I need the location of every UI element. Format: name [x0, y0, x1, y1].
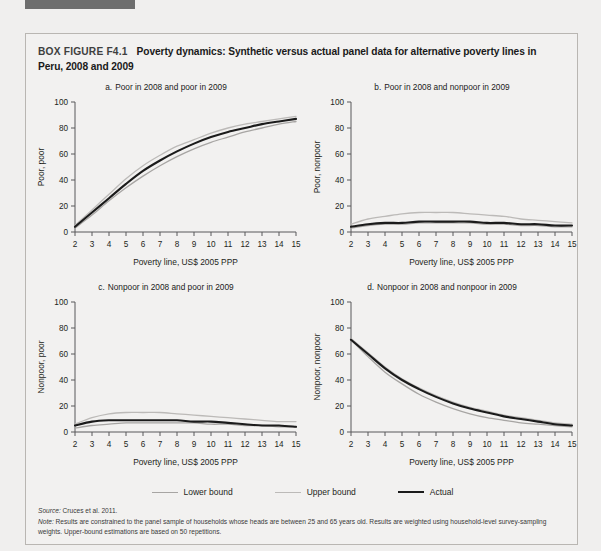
svg-text:5: 5 — [124, 240, 129, 249]
svg-text:15: 15 — [291, 240, 301, 249]
svg-text:7: 7 — [434, 240, 439, 249]
svg-text:7: 7 — [158, 240, 163, 249]
legend-label-lower-bound: Lower bound — [184, 487, 233, 497]
svg-text:100: 100 — [330, 98, 344, 107]
note-body-label: Note: — [38, 518, 54, 525]
svg-text:10: 10 — [206, 440, 216, 449]
svg-text:Poverty line, US$ 2005 PPP: Poverty line, US$ 2005 PPP — [133, 257, 238, 267]
note-source-label: Source: — [38, 507, 61, 514]
figure-title: BOX FIGURE F4.1Poverty dynamics: Synthet… — [38, 44, 563, 74]
svg-text:40: 40 — [59, 176, 69, 185]
svg-text:2: 2 — [73, 240, 78, 249]
figure-box: BOX FIGURE F4.1Poverty dynamics: Synthet… — [25, 33, 578, 545]
figure-notes: Source: Cruces et al. 2011. Note: Result… — [38, 506, 563, 538]
svg-text:15: 15 — [567, 440, 577, 449]
svg-text:15: 15 — [567, 240, 577, 249]
svg-text:20: 20 — [335, 202, 345, 211]
svg-text:Poor, poor: Poor, poor — [36, 147, 46, 186]
legend-swatch-actual-icon — [398, 491, 424, 493]
svg-text:14: 14 — [550, 440, 560, 449]
svg-text:7: 7 — [158, 440, 163, 449]
legend-item-actual: Actual — [398, 487, 454, 497]
chart-panel-b: b.Poor in 2008 and nonpoor in 2009 02040… — [304, 80, 580, 280]
svg-text:40: 40 — [335, 176, 345, 185]
svg-text:9: 9 — [192, 240, 197, 249]
svg-text:11: 11 — [224, 240, 233, 249]
svg-text:100: 100 — [54, 298, 68, 307]
svg-text:9: 9 — [468, 240, 473, 249]
svg-text:14: 14 — [274, 440, 284, 449]
svg-text:80: 80 — [335, 124, 345, 133]
svg-text:100: 100 — [330, 298, 344, 307]
svg-text:4: 4 — [383, 240, 388, 249]
svg-text:4: 4 — [107, 440, 112, 449]
svg-text:3: 3 — [90, 240, 95, 249]
svg-text:12: 12 — [516, 240, 526, 249]
svg-text:2: 2 — [349, 240, 354, 249]
svg-text:2: 2 — [73, 440, 78, 449]
svg-text:6: 6 — [141, 240, 146, 249]
svg-text:2: 2 — [349, 440, 354, 449]
svg-text:13: 13 — [257, 440, 267, 449]
svg-text:3: 3 — [366, 440, 371, 449]
legend-label-upper-bound: Upper bound — [307, 487, 356, 497]
legend-item-upper-bound: Upper bound — [275, 487, 356, 497]
svg-text:60: 60 — [59, 350, 69, 359]
svg-text:8: 8 — [451, 440, 456, 449]
note-source: Source: Cruces et al. 2011. — [38, 506, 563, 516]
note-body: Note: Results are constrained to the pan… — [38, 517, 563, 537]
svg-text:Nonpoor, poor: Nonpoor, poor — [36, 340, 46, 393]
chart-c-canvas: 02040608010023456789101112131415Nonpoor,… — [28, 280, 304, 480]
svg-text:12: 12 — [240, 240, 250, 249]
chart-panel-c: c.Nonpoor in 2008 and poor in 2009 02040… — [28, 280, 304, 480]
redacted-header-bar — [25, 0, 135, 9]
svg-text:0: 0 — [63, 228, 68, 237]
figure-tag: BOX FIGURE F4.1 — [38, 46, 128, 57]
svg-text:80: 80 — [59, 324, 69, 333]
svg-text:3: 3 — [90, 440, 95, 449]
svg-text:9: 9 — [192, 440, 197, 449]
svg-text:60: 60 — [335, 350, 345, 359]
legend-swatch-upper-bound-icon — [275, 492, 301, 493]
svg-text:5: 5 — [400, 440, 405, 449]
svg-text:8: 8 — [175, 440, 180, 449]
chart-b-canvas: 02040608010023456789101112131415Poor, no… — [304, 80, 580, 280]
svg-text:4: 4 — [383, 440, 388, 449]
legend-item-lower-bound: Lower bound — [152, 487, 233, 497]
svg-text:20: 20 — [335, 402, 345, 411]
svg-text:9: 9 — [468, 440, 473, 449]
svg-text:Poor, nonpoor: Poor, nonpoor — [312, 140, 322, 193]
svg-text:80: 80 — [59, 124, 69, 133]
chart-legend: Lower bound Upper bound Actual — [26, 482, 579, 502]
svg-text:0: 0 — [339, 228, 344, 237]
svg-text:Nonpoor, nonpoor: Nonpoor, nonpoor — [312, 333, 322, 400]
svg-text:Poverty line, US$ 2005 PPP: Poverty line, US$ 2005 PPP — [409, 257, 514, 267]
svg-text:0: 0 — [339, 428, 344, 437]
svg-text:8: 8 — [451, 240, 456, 249]
svg-text:13: 13 — [257, 240, 267, 249]
svg-text:13: 13 — [533, 440, 543, 449]
svg-text:12: 12 — [516, 440, 526, 449]
legend-label-actual: Actual — [430, 487, 454, 497]
svg-text:3: 3 — [366, 240, 371, 249]
svg-text:40: 40 — [59, 376, 69, 385]
svg-text:Poverty line, US$ 2005 PPP: Poverty line, US$ 2005 PPP — [133, 457, 238, 467]
svg-text:5: 5 — [124, 440, 129, 449]
svg-text:12: 12 — [240, 440, 250, 449]
svg-text:40: 40 — [335, 376, 345, 385]
svg-text:13: 13 — [533, 240, 543, 249]
svg-text:14: 14 — [550, 240, 560, 249]
svg-text:5: 5 — [400, 240, 405, 249]
note-source-text: Cruces et al. 2011. — [61, 507, 118, 514]
svg-text:11: 11 — [500, 440, 509, 449]
svg-text:60: 60 — [335, 150, 345, 159]
chart-panel-d: d.Nonpoor in 2008 and nonpoor in 2009 02… — [304, 280, 580, 480]
svg-text:10: 10 — [206, 240, 216, 249]
svg-text:15: 15 — [291, 440, 301, 449]
note-body-text: Results are constrained to the panel sam… — [38, 518, 546, 535]
legend-swatch-lower-bound-icon — [152, 492, 178, 493]
svg-text:100: 100 — [54, 98, 68, 107]
svg-text:60: 60 — [59, 150, 69, 159]
svg-text:10: 10 — [482, 240, 492, 249]
svg-text:0: 0 — [63, 428, 68, 437]
